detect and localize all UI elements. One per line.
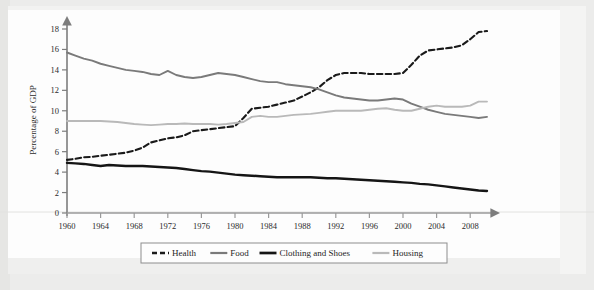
y-tick-label: 10 <box>51 106 60 116</box>
x-tick-label: 1992 <box>327 221 344 231</box>
legend-label-housing[interactable]: Housing <box>392 248 423 258</box>
x-tick-label: 1968 <box>126 221 143 231</box>
y-tick-label: 18 <box>51 24 60 34</box>
y-tick-label: 0 <box>55 208 59 218</box>
chart-legend: HealthFoodClothing and ShoesHousing <box>141 243 447 263</box>
legend-label-health[interactable]: Health <box>172 248 196 258</box>
y-tick-label: 12 <box>51 85 60 95</box>
legend-label-clothing-and-shoes[interactable]: Clothing and Shoes <box>280 248 351 258</box>
y-tick-label: 2 <box>55 188 59 198</box>
line-chart: 024681012141618 196019641968197219761980… <box>0 0 594 290</box>
chart-svg: 024681012141618 196019641968197219761980… <box>0 0 594 290</box>
legend-label-food[interactable]: Food <box>230 248 249 258</box>
series-line-clothing-and-shoes <box>67 163 487 191</box>
x-tick-label: 2008 <box>462 221 479 231</box>
y-tick-label: 8 <box>55 126 59 136</box>
series-group <box>67 31 487 191</box>
x-tick-label: 1980 <box>227 221 244 231</box>
x-tick-label: 1964 <box>92 221 110 231</box>
x-tick-label: 1976 <box>193 221 210 231</box>
y-tick-label: 6 <box>55 147 59 157</box>
x-tick-label: 1984 <box>260 221 278 231</box>
figure-page: 024681012141618 196019641968197219761980… <box>0 0 594 290</box>
y-tick-label: 4 <box>55 167 60 177</box>
y-tick-group: 024681012141618 <box>51 24 68 218</box>
series-line-health <box>67 31 487 160</box>
y-axis-title: Percentage of GDP <box>28 85 38 154</box>
x-tick-group: 1960196419681972197619801984198819921996… <box>59 213 479 231</box>
x-tick-label: 1996 <box>361 221 378 231</box>
x-tick-label: 1988 <box>294 221 311 231</box>
x-tick-label: 2004 <box>428 221 446 231</box>
y-tick-label: 14 <box>51 65 60 75</box>
x-tick-label: 2000 <box>395 221 412 231</box>
x-tick-label: 1960 <box>59 221 76 231</box>
x-tick-label: 1972 <box>159 221 176 231</box>
y-tick-label: 16 <box>51 44 60 54</box>
